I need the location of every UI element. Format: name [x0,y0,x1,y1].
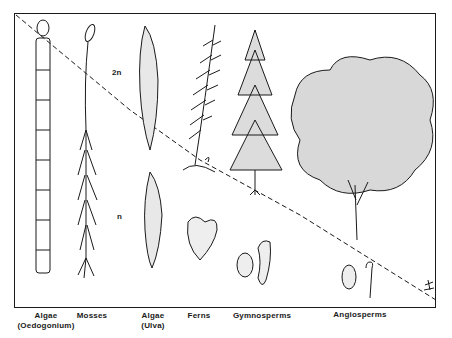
pollen-grain-icon [237,253,253,277]
label-oedogonium: Algae (Oedogonium) [14,311,78,331]
oedogonium-filament-icon [36,20,50,273]
label-ulva: Algae (Ulva) [135,311,171,331]
artist-signature-icon [424,280,434,290]
diploid-label: 2n [112,68,121,77]
ulva-gametophyte-icon [145,172,162,268]
angiosperm-tree-icon [291,57,433,240]
pollen-tube-icon [366,262,373,298]
label-angiosperms: Angiosperms [330,310,390,320]
label-ferns: Ferns [184,311,214,321]
fern-frond-icon [183,25,221,172]
life-cycle-illustration [0,0,452,338]
conifer-tree-icon [230,30,282,195]
label-gymnosperms: Gymnosperms [232,311,292,321]
ulva-sporophyte-icon [140,26,158,150]
embryo-sac-icon [342,265,356,289]
fern-prothallus-icon [188,217,218,260]
label-mosses: Mosses [72,311,112,321]
female-gametophyte-icon [258,241,271,285]
haploid-label: n [117,212,122,221]
moss-plant-icon [78,23,97,278]
